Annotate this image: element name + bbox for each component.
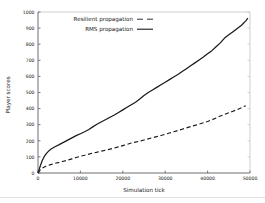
- y-tick-label: 100: [26, 155, 35, 160]
- x-axis-title: Simulation tick: [123, 187, 165, 193]
- x-tick-label: 0: [37, 176, 40, 181]
- legend-label-resilient: Resilient propagation: [74, 16, 134, 23]
- x-tick-label: 50000: [243, 176, 258, 181]
- y-tick-label: 900: [26, 26, 35, 31]
- y-tick-label: 200: [26, 139, 35, 144]
- figure-bottom-edge: [0, 197, 265, 198]
- y-axis-title: Player scores: [5, 76, 12, 113]
- y-tick-label: 800: [26, 42, 35, 47]
- y-tick-label: 400: [26, 106, 35, 111]
- x-tick-label: 30000: [158, 176, 173, 181]
- x-tick-label: 10000: [73, 176, 88, 181]
- y-tick-label: 0: [32, 171, 35, 176]
- line-chart: 01002003004005006007008009001000 0100002…: [0, 0, 265, 203]
- y-tick-label: 300: [26, 122, 35, 127]
- y-tick-label: 700: [26, 58, 35, 63]
- legend-label-rms: RMS propagation: [85, 26, 133, 33]
- x-tick-label: 40000: [200, 176, 215, 181]
- chart-figure: 01002003004005006007008009001000 0100002…: [0, 0, 265, 203]
- y-tick-label: 600: [26, 74, 35, 79]
- y-tick-label: 500: [26, 90, 35, 95]
- x-tick-label: 20000: [115, 176, 130, 181]
- y-tick-label: 1000: [23, 10, 35, 15]
